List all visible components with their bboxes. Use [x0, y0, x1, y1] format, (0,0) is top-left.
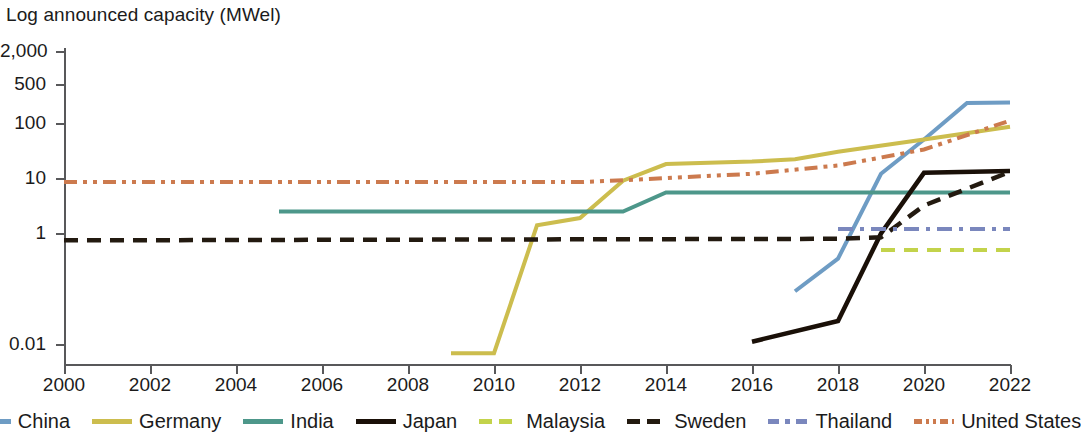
legend-item-germany[interactable]: Germany [92, 410, 221, 433]
legend-swatch-icon [627, 419, 667, 424]
series-line-united-states [64, 121, 1010, 182]
legend-swatch-icon [768, 419, 808, 424]
legend-label: United States [961, 410, 1081, 433]
legend-item-sweden[interactable]: Sweden [627, 410, 746, 433]
legend-swatch-icon [914, 419, 954, 424]
legend-label: Thailand [815, 410, 892, 433]
legend-item-china[interactable]: China [0, 410, 70, 433]
legend-label: Japan [403, 410, 458, 433]
legend-label: Germany [139, 410, 221, 433]
legend-label: China [18, 410, 70, 433]
legend-item-malaysia[interactable]: Malaysia [479, 410, 605, 433]
legend-label: Sweden [674, 410, 746, 433]
legend-item-thailand[interactable]: Thailand [768, 410, 892, 433]
legend-swatch-icon [92, 419, 132, 424]
legend-item-united-states[interactable]: United States [914, 410, 1081, 433]
legend-swatch-icon [0, 419, 11, 424]
legend-swatch-icon [243, 419, 283, 424]
legend-swatch-icon [356, 419, 396, 424]
legend-item-japan[interactable]: Japan [356, 410, 458, 433]
legend-label: Malaysia [526, 410, 605, 433]
series-line-japan [752, 171, 1010, 342]
chart-legend: ChinaGermanyIndiaJapanMalaysiaSwedenThai… [0, 404, 1052, 438]
legend-label: India [290, 410, 333, 433]
legend-item-india[interactable]: India [243, 410, 333, 433]
legend-swatch-icon [479, 419, 519, 424]
